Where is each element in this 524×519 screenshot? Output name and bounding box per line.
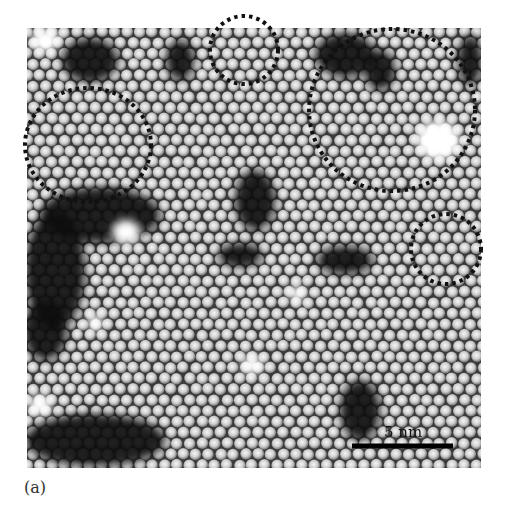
figure: 5 nm (a) <box>0 0 524 519</box>
micrograph-image <box>0 0 524 519</box>
panel-label: (a) <box>24 478 46 497</box>
scale-bar-label: 5 nm <box>384 425 422 440</box>
